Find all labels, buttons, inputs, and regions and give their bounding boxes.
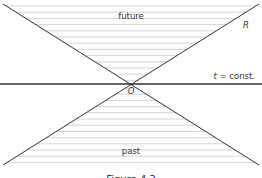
cone-label-r: R: [243, 20, 249, 30]
future-label: future: [118, 11, 144, 21]
origin-label: O: [128, 86, 135, 96]
t-const-label: t = const.: [213, 71, 255, 81]
figure-caption: Figure 4.3: [106, 174, 156, 178]
past-label: past: [122, 146, 141, 156]
const-text: = const.: [217, 71, 255, 81]
light-cone-diagram: future past O R t = const. Figure 4.3: [0, 0, 262, 178]
